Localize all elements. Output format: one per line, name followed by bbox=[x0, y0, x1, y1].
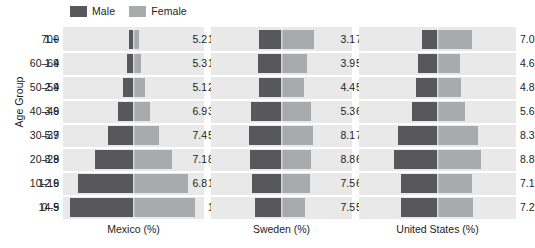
male-half: 14.5 bbox=[63, 195, 134, 219]
male-bar[interactable]: 4.4 bbox=[416, 78, 438, 97]
male-bar[interactable]: 3.1 bbox=[422, 30, 437, 49]
female-bar-value: 5.6 bbox=[520, 105, 535, 117]
male-bar[interactable]: 7.1 bbox=[250, 150, 281, 169]
panel-caption: United States (%) bbox=[359, 223, 516, 235]
male-half: 3.1 bbox=[359, 27, 438, 51]
female-bar[interactable]: 6.8 bbox=[282, 150, 312, 169]
female-bar[interactable]: 8.8 bbox=[438, 150, 481, 169]
female-half: 8.3 bbox=[438, 123, 517, 147]
male-bar[interactable]: 12.6 bbox=[78, 174, 134, 193]
female-bar[interactable]: 7.4 bbox=[282, 30, 315, 49]
bar-row: 5.75.7 bbox=[63, 123, 204, 147]
male-bar[interactable]: 8.8 bbox=[394, 150, 437, 169]
bar-row: 5.35.6 bbox=[359, 99, 516, 123]
panel-united-states: 3.17.03.94.64.44.85.35.68.18.38.88.87.57… bbox=[359, 27, 516, 219]
bar-row: 5.3 bbox=[211, 195, 352, 219]
panel-sweden: 5.27.45.35.75.15.26.96.67.47.17.16.86.86… bbox=[211, 27, 352, 219]
female-bar-value: 7.2 bbox=[520, 201, 535, 213]
female-bar[interactable]: 5.7 bbox=[282, 54, 307, 73]
male-bar-value: 7.5 bbox=[340, 201, 355, 213]
legend-swatch-female bbox=[129, 6, 146, 17]
male-half: 1.0 bbox=[63, 27, 134, 51]
male-bar-value: 14.5 bbox=[39, 201, 59, 213]
female-bar[interactable]: 5.6 bbox=[438, 102, 465, 121]
female-bar[interactable]: 2.6 bbox=[134, 78, 145, 97]
chart-legend: MaleFemale bbox=[70, 3, 187, 19]
male-bar[interactable]: 5.3 bbox=[258, 54, 281, 73]
female-bar-value: 8.3 bbox=[520, 129, 535, 141]
bar-row: 7.47.1 bbox=[211, 123, 352, 147]
bar-row: 7.57.2 bbox=[359, 195, 516, 219]
male-bar-value: 8.8 bbox=[340, 153, 355, 165]
male-half bbox=[211, 195, 282, 219]
male-bar-value: 6.8 bbox=[192, 177, 207, 189]
male-half: 8.8 bbox=[63, 147, 134, 171]
female-bar[interactable]: 8.3 bbox=[438, 126, 479, 145]
male-bar[interactable]: 5.7 bbox=[108, 126, 133, 145]
male-bar[interactable]: 14.5 bbox=[70, 198, 134, 217]
female-half: 5.6 bbox=[438, 99, 517, 123]
bar-row: 8.88.7 bbox=[63, 147, 204, 171]
legend-entry-female[interactable]: Female bbox=[129, 5, 187, 17]
male-half: 6.9 bbox=[211, 99, 282, 123]
male-bar-value: 1.0 bbox=[44, 33, 59, 45]
female-half: 13.9 bbox=[134, 195, 205, 219]
female-bar-value: 4.8 bbox=[520, 81, 535, 93]
male-bar[interactable] bbox=[255, 198, 281, 217]
male-bar[interactable]: 8.1 bbox=[398, 126, 438, 145]
panel-caption: Sweden (%) bbox=[211, 223, 352, 235]
female-half: 4.6 bbox=[438, 51, 517, 75]
bar-row: 5.35.7 bbox=[211, 51, 352, 75]
male-bar[interactable]: 6.9 bbox=[251, 102, 281, 121]
male-bar[interactable]: 5.2 bbox=[259, 30, 282, 49]
female-bar[interactable]: 1.3 bbox=[134, 30, 140, 49]
male-bar-value: 3.6 bbox=[44, 105, 59, 117]
bar-row: 14.513.9 bbox=[63, 195, 204, 219]
plot-area: 5.27.45.35.75.15.26.96.67.47.17.16.86.86… bbox=[211, 27, 352, 219]
male-bar-value: 4.4 bbox=[340, 81, 355, 93]
male-bar[interactable]: 7.5 bbox=[401, 198, 438, 217]
male-half: 3.9 bbox=[359, 51, 438, 75]
male-bar[interactable]: 6.8 bbox=[252, 174, 282, 193]
female-bar-value: 7.0 bbox=[520, 33, 535, 45]
male-half: 7.5 bbox=[359, 195, 438, 219]
male-bar-value: 3.1 bbox=[340, 33, 355, 45]
male-bar[interactable]: 5.1 bbox=[259, 78, 281, 97]
legend-entry-male[interactable]: Male bbox=[70, 5, 115, 17]
male-bar[interactable]: 7.4 bbox=[249, 126, 282, 145]
panel-caption: Mexico (%) bbox=[63, 223, 204, 235]
male-half: 1.4 bbox=[63, 51, 134, 75]
female-bar[interactable]: 7.1 bbox=[282, 126, 313, 145]
female-bar[interactable]: 7.1 bbox=[438, 174, 473, 193]
female-bar[interactable]: 1.7 bbox=[134, 54, 141, 73]
bar-row: 12.612.3 bbox=[63, 171, 204, 195]
female-bar[interactable]: 13.9 bbox=[134, 198, 195, 217]
bar-row: 6.96.6 bbox=[211, 99, 352, 123]
female-bar[interactable]: 5.7 bbox=[134, 126, 159, 145]
male-bar[interactable]: 5.3 bbox=[412, 102, 438, 121]
female-bar[interactable]: 5.3 bbox=[282, 198, 305, 217]
female-bar[interactable]: 8.7 bbox=[134, 150, 172, 169]
female-bar-value: 4.6 bbox=[520, 57, 535, 69]
female-bar[interactable]: 4.6 bbox=[438, 54, 461, 73]
female-bar[interactable]: 6.5 bbox=[282, 174, 311, 193]
male-half: 3.6 bbox=[63, 99, 134, 123]
female-bar[interactable]: 4.8 bbox=[438, 78, 462, 97]
female-bar[interactable]: 7.2 bbox=[438, 198, 473, 217]
plot-area: 1.01.31.41.72.42.63.63.85.75.78.88.712.6… bbox=[63, 27, 204, 219]
male-bar-value: 8.1 bbox=[340, 129, 355, 141]
female-bar[interactable]: 7.0 bbox=[438, 30, 472, 49]
male-bar[interactable]: 7.5 bbox=[401, 174, 438, 193]
male-bar[interactable]: 3.6 bbox=[118, 102, 134, 121]
male-bar[interactable]: 2.4 bbox=[123, 78, 134, 97]
female-bar[interactable]: 3.8 bbox=[134, 102, 151, 121]
female-half: 8.8 bbox=[438, 147, 517, 171]
male-bar[interactable]: 8.8 bbox=[95, 150, 134, 169]
female-bar[interactable]: 5.2 bbox=[282, 78, 305, 97]
male-half: 8.1 bbox=[359, 123, 438, 147]
male-bar[interactable]: 3.9 bbox=[418, 54, 437, 73]
female-half: 7.0 bbox=[438, 27, 517, 51]
female-bar[interactable]: 6.6 bbox=[282, 102, 311, 121]
bar-rows: 1.01.31.41.72.42.63.63.85.75.78.88.712.6… bbox=[63, 27, 204, 219]
female-bar[interactable]: 12.3 bbox=[134, 174, 188, 193]
